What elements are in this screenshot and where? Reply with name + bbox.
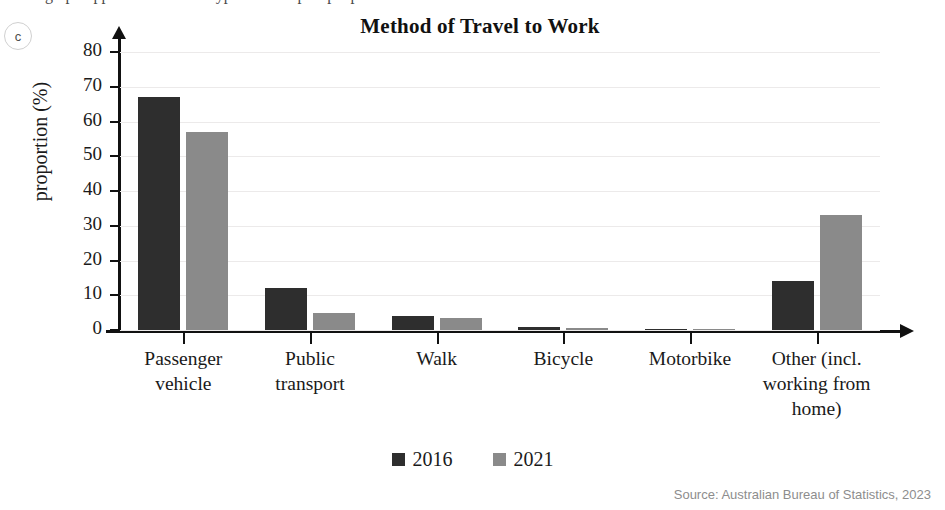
x-axis-category-label-line: home) [745,396,888,421]
bar-2021-1 [313,313,355,330]
gridline [120,261,880,262]
bar-2016-0 [138,97,180,330]
x-axis-category-label-line: working from [745,371,888,396]
x-axis-category-label: Publictransport [239,346,382,396]
bar-2016-2 [392,316,434,330]
gridline [120,191,880,192]
bar-2021-2 [440,318,482,330]
bar-chart: Method of Travel to Work proportion (%) … [0,0,945,510]
x-axis-tick-mark [437,333,439,344]
x-axis-category-label-line: Motorbike [619,346,762,371]
y-axis-tick-mark [110,190,119,192]
x-axis-tick-mark [310,333,312,344]
y-axis-tick-label: 70 [58,74,102,96]
x-axis-tick-mark [690,333,692,344]
bar-2016-5 [772,281,814,330]
chart-title: Method of Travel to Work [120,14,840,39]
plot-area [120,52,880,330]
y-axis-tick-label: 20 [58,248,102,270]
gridline [120,295,880,296]
y-axis-tick-mark [110,225,119,227]
y-axis-tick-label: 10 [58,282,102,304]
bar-2021-5 [820,215,862,330]
y-axis-tick-mark [110,121,119,123]
chart-legend: 20162021 [0,448,945,471]
x-axis-category-label: Walk [365,346,508,371]
bar-2016-4 [645,329,687,331]
x-axis-category-label-line: vehicle [112,371,255,396]
y-axis-tick-label: 50 [58,143,102,165]
bar-2016-3 [518,327,560,330]
y-axis-tick-mark [110,260,119,262]
legend-label: 2016 [413,448,453,471]
legend-swatch-icon [493,453,506,466]
y-axis-tick-label: 0 [58,317,102,339]
x-axis-category-label: Motorbike [619,346,762,371]
y-axis-tick-mark [110,51,119,53]
x-axis-tick-mark [563,333,565,344]
y-axis-tick-mark [110,329,119,331]
gridline [120,226,880,227]
bar-2021-4 [693,329,735,331]
gridline [120,122,880,123]
x-axis-tick-mark [817,333,819,344]
y-axis-tick-label: 80 [58,39,102,61]
y-axis-tick-label: 60 [58,109,102,131]
x-axis-category-label-line: Public [239,346,382,371]
gridline [120,87,880,88]
x-axis-category-label: Other (incl.working fromhome) [745,346,888,421]
source-note: Source: Australian Bureau of Statistics,… [674,487,931,502]
y-axis-title: proportion (%) [29,42,52,242]
bar-2016-1 [265,288,307,330]
legend-item-2021: 2021 [493,448,554,471]
y-axis-tick-mark [110,155,119,157]
bar-2021-0 [186,132,228,330]
y-axis-tick-mark [110,86,119,88]
bar-2021-3 [566,328,608,330]
x-axis-category-label-line: transport [239,371,382,396]
legend-label: 2021 [514,448,554,471]
legend-item-2016: 2016 [392,448,453,471]
chart-page: a graph opposite shows the types of tran… [0,0,945,510]
x-axis-category-label: Passengervehicle [112,346,255,396]
y-axis-tick-label: 40 [58,178,102,200]
x-axis-category-label-line: Walk [365,346,508,371]
x-axis-category-label: Bicycle [492,346,635,371]
legend-swatch-icon [392,453,405,466]
y-axis-tick-mark [110,294,119,296]
gridline [120,330,880,331]
x-axis-arrow-icon [900,324,914,338]
gridline [120,156,880,157]
gridline [120,52,880,53]
x-axis-tick-mark [183,333,185,344]
y-axis-tick-label: 30 [58,213,102,235]
x-axis-category-label-line: Other (incl. [745,346,888,371]
x-axis-category-label-line: Bicycle [492,346,635,371]
x-axis-category-label-line: Passenger [112,346,255,371]
